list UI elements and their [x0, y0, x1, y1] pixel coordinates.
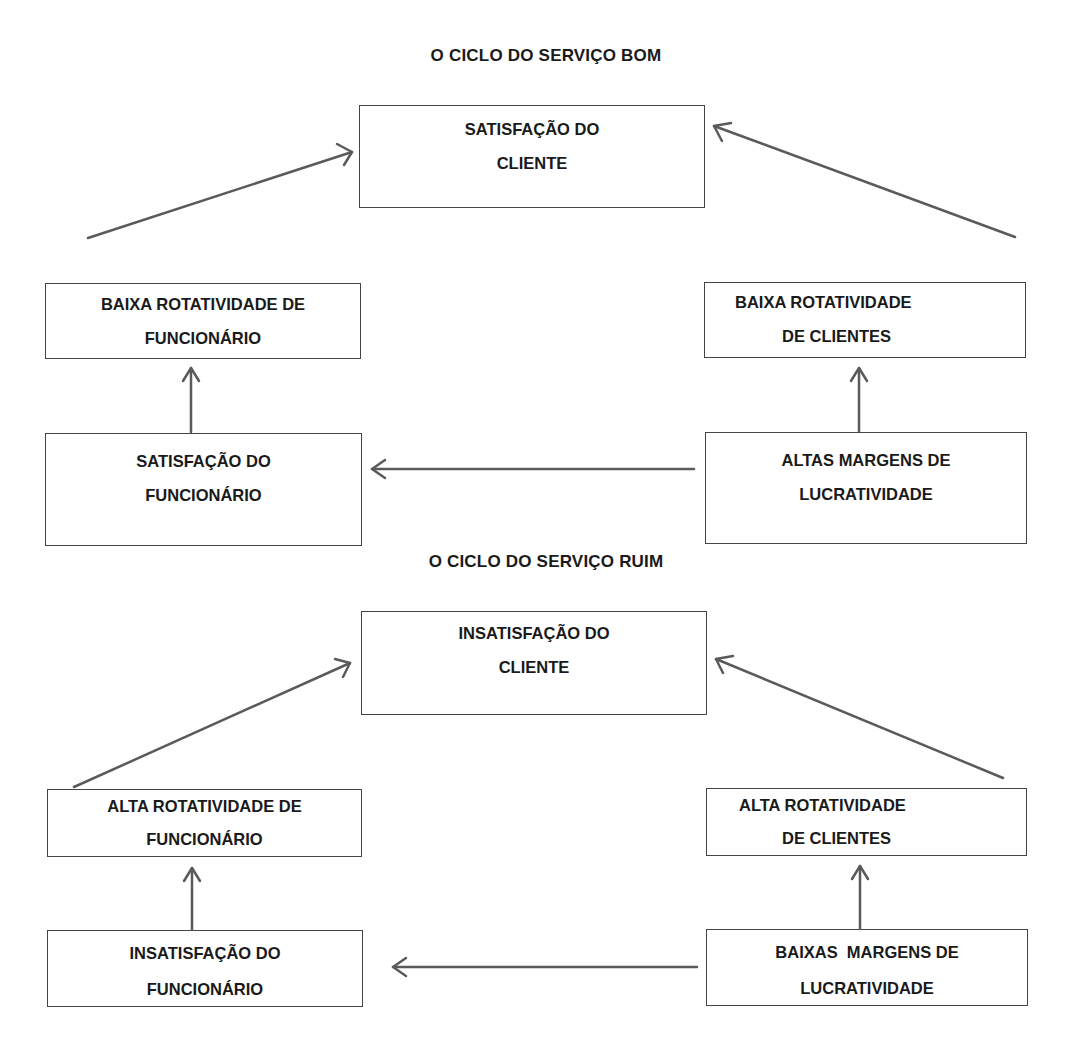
service-cycle-diagrams: O CICLO DO SERVIÇO BOM SATISFAÇÃO DO CLI… — [0, 0, 1092, 1061]
node-label-line2: FUNCIONÁRIO — [46, 478, 361, 512]
arrow-customer-turnover-to-customer — [714, 123, 1015, 237]
bad-node-customer-dissatisfaction: INSATISFAÇÃO DO CLIENTE — [361, 611, 707, 715]
node-label-line1: BAIXA ROTATIVIDADE DE — [46, 287, 360, 321]
arrow-employee-dissatisfaction-to-employee-turnover — [184, 868, 200, 930]
arrow-high-customer-turnover-to-customer — [716, 656, 1003, 778]
bad-node-low-profit-margins: BAIXAS MARGENS DE LUCRATIVIDADE — [706, 929, 1028, 1006]
arrow-employee-satisfaction-to-employee-turnover — [183, 368, 199, 432]
bad-node-high-customer-turnover: ALTA ROTATIVIDADE DE CLIENTES — [706, 788, 1027, 856]
node-label-line2: FUNCIONÁRIO — [46, 321, 360, 355]
good-node-employee-satisfaction: SATISFAÇÃO DO FUNCIONÁRIO — [45, 433, 362, 546]
node-label-line1: INSATISFAÇÃO DO — [48, 935, 362, 971]
good-node-low-customer-turnover: BAIXA ROTATIVIDADE DE CLIENTES — [704, 282, 1026, 358]
bad-node-employee-dissatisfaction: INSATISFAÇÃO DO FUNCIONÁRIO — [47, 930, 363, 1007]
node-label-line1: ALTA ROTATIVIDADE DE — [48, 790, 361, 823]
arrow-employee-turnover-to-customer — [88, 144, 352, 238]
node-label-line2: DE CLIENTES — [735, 319, 1025, 353]
good-node-low-employee-turnover: BAIXA ROTATIVIDADE DE FUNCIONÁRIO — [45, 283, 361, 359]
arrow-profit-margins-to-employee-satisfaction — [372, 460, 694, 478]
arrow-low-profit-margins-to-customer-turnover — [852, 866, 868, 929]
bad-node-high-employee-turnover: ALTA ROTATIVIDADE DE FUNCIONÁRIO — [47, 789, 362, 857]
node-label-line1: BAIXAS MARGENS DE — [707, 934, 1027, 970]
arrow-high-employee-turnover-to-customer — [74, 659, 350, 787]
node-label-line2: LUCRATIVIDADE — [707, 970, 1027, 1006]
node-label-line2: FUNCIONÁRIO — [48, 823, 361, 856]
arrow-profit-margins-to-customer-turnover — [851, 368, 867, 432]
arrow-low-profit-margins-to-employee-dissatisfaction — [393, 958, 697, 976]
node-label-line1: BAIXA ROTATIVIDADE — [735, 285, 1025, 319]
bad-cycle-title: O CICLO DO SERVIÇO RUIM — [0, 552, 1092, 572]
node-label-line2: CLIENTE — [360, 146, 704, 180]
good-node-high-profit-margins: ALTAS MARGENS DE LUCRATIVIDADE — [705, 432, 1027, 544]
good-node-customer-satisfaction: SATISFAÇÃO DO CLIENTE — [359, 105, 705, 208]
node-label-line1: INSATISFAÇÃO DO — [362, 616, 706, 650]
good-cycle-title: O CICLO DO SERVIÇO BOM — [0, 46, 1092, 66]
node-label-line2: LUCRATIVIDADE — [706, 477, 1026, 511]
node-label-line1: ALTAS MARGENS DE — [706, 443, 1026, 477]
node-label-line2: CLIENTE — [362, 650, 706, 684]
node-label-line1: SATISFAÇÃO DO — [46, 444, 361, 478]
node-label-line2: FUNCIONÁRIO — [48, 971, 362, 1007]
node-label-line2: DE CLIENTES — [739, 822, 1026, 855]
node-label-line1: SATISFAÇÃO DO — [360, 112, 704, 146]
node-label-line1: ALTA ROTATIVIDADE — [739, 789, 1026, 822]
